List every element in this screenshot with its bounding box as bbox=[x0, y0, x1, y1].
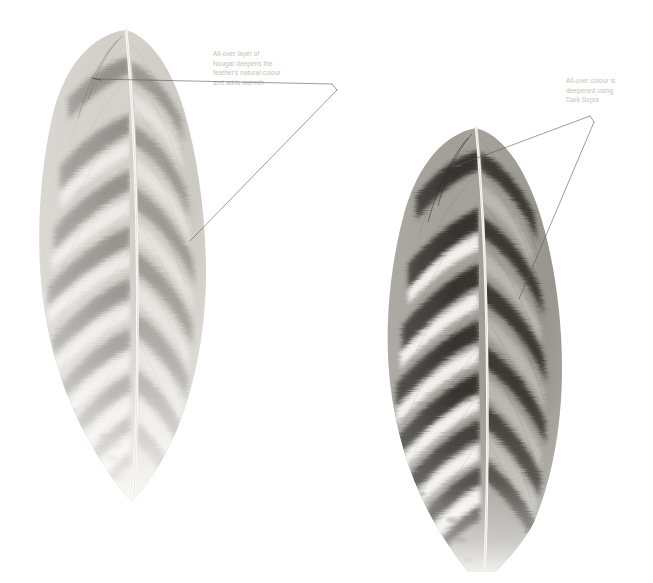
illustration-plate: All-over layer of Nougat deepens the fea… bbox=[0, 0, 653, 583]
annotation-text-left: All-over layer of Nougat deepens the fea… bbox=[213, 49, 331, 88]
feather-drawing-left bbox=[18, 22, 253, 512]
leader-left-apex bbox=[332, 84, 337, 90]
feather-drawing-right bbox=[360, 122, 610, 572]
feather-figure-left bbox=[18, 22, 253, 512]
feather-figure-right bbox=[360, 122, 610, 572]
annotation-text-right: All-over colour is deepened using Dark S… bbox=[566, 76, 653, 105]
